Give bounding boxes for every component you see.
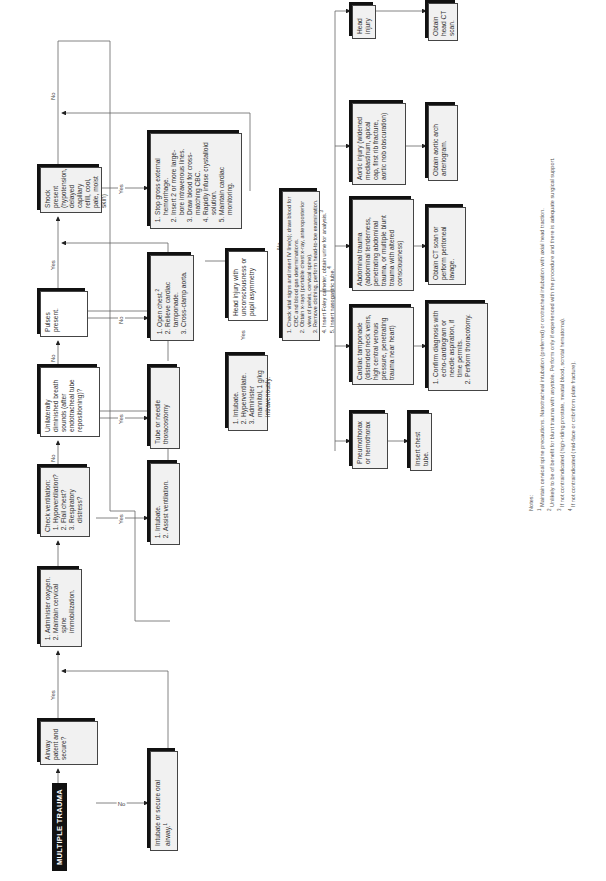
list-item: Administer mannitol, 1 g/kg intravenousl…	[248, 360, 272, 417]
node-text: Cardiac tamponade (distended neck veins,…	[356, 314, 395, 380]
note-number: 3	[557, 508, 562, 511]
node-abdominal-trauma: Abdominal trauma (abdominal tenderness, …	[352, 199, 414, 291]
note-text: If not contraindicated (high-riding pros…	[559, 318, 565, 507]
list-item: Check vital signs and insert IV line(s);…	[286, 196, 299, 327]
node-shock-actions: Stop gross external hemorrhage. Insert 2…	[150, 133, 242, 229]
note-3: 3 If not contraindicated (high-riding pr…	[556, 11, 566, 511]
node-head-ct: Obtain head CT scan.	[428, 3, 458, 41]
node-aortic-injury: Aortic injury (widened mediastinum, apic…	[352, 103, 406, 185]
note-1: 1 Maintain cervical spine precautions. N…	[536, 11, 546, 511]
node-confirm-diagnosis: Confirm diagnosis with echo-cardiogram o…	[428, 303, 488, 391]
node-text: Abdominal trauma (abdominal tenderness, …	[356, 215, 403, 286]
node-text: Aortic injury (widened mediastinum, apic…	[356, 113, 387, 180]
node-head-injury: Head injury	[352, 5, 376, 39]
node-shock-present: Shock present (hypotension, delayed capi…	[40, 167, 102, 213]
list-item: Remove clothing, perform head-to-toe exa…	[312, 196, 319, 327]
node-arteriogram: Obtain aortic arch arteriogram.	[428, 105, 458, 181]
list-item: Stop gross external hemorrhage.	[154, 138, 170, 215]
node-intubate-assist: Intubate.Assist ventilation.	[150, 463, 180, 545]
edge-label-no: No	[117, 801, 127, 808]
edge-label-yes: Yes	[240, 329, 247, 341]
node-text: Pulses present.	[44, 308, 59, 332]
footnote-ref: 4	[327, 266, 332, 269]
flowchart-multiple-trauma: MULTIPLE TRAUMA Airway patent and secure…	[0, 0, 606, 881]
edge-label-yes: Yes	[50, 259, 57, 271]
list-item: Respiratory distress?	[68, 472, 84, 523]
notes-heading: Notes:	[528, 11, 536, 511]
node-administer-oxygen: Administer oxygen.Maintain cervical spin…	[40, 569, 82, 647]
note-text: Maintain cervical spine precautions. Nas…	[538, 208, 544, 507]
node-text: Tube or needle thoracostomy	[154, 400, 169, 444]
chart-title: MULTIPLE TRAUMA	[52, 783, 67, 871]
node-text: Insert chest tube.	[414, 432, 429, 466]
node-text: Unilaterally diminished breath sounds (a…	[44, 379, 83, 432]
list-item: Cross-clamp aorta.	[180, 260, 188, 327]
node-airway-patent: Airway patent and secure?	[40, 721, 98, 765]
node-open-chest: Open chest.2 Relieve cardiac tamponade. …	[150, 255, 194, 341]
list-item: Obtain x-rays (portable chest x-ray, ant…	[299, 196, 312, 327]
list-item: Administer oxygen.	[44, 574, 52, 633]
node-head-injury-unconscious: Head injury with unconsciousness or pupi…	[228, 251, 268, 321]
list-item: Intubate.	[232, 360, 240, 417]
list-item: Hyperventilate.	[240, 360, 248, 417]
note-text: Unlikely to be of benefit for blunt trau…	[549, 157, 555, 507]
note-2: 2 Unlikely to be of benefit for blunt tr…	[546, 11, 556, 511]
node-intubate-hyperventilate: Intubate. Hyperventilate. Administer man…	[228, 355, 268, 431]
list-item: Flail chest?	[60, 472, 68, 523]
node-pneumothorax: Pneumothorax or hemothorax	[352, 413, 388, 469]
edge-label-no: No	[118, 315, 125, 325]
node-text: Obtain aortic arch arteriogram.	[432, 124, 447, 176]
list-item: Assist ventilation.	[162, 468, 170, 531]
node-text: Shock present (hypotension, delayed capi…	[44, 168, 107, 208]
node-cardiac-tamponade: Cardiac tamponade (distended neck veins,…	[352, 307, 414, 385]
list-item: Confirm diagnosis with echo-cardiogram o…	[432, 308, 464, 377]
item-text: Insert Foley catheter, obtain urine for …	[321, 213, 327, 327]
list-item: Perform thoracotomy.	[464, 308, 472, 377]
node-text: Obtain CT scan or perform peritoneal lav…	[432, 226, 455, 280]
node-ct-lavage: Obtain CT scan or perform peritoneal lav…	[428, 207, 466, 285]
node-text: Head injury with unconsciousness or pupi…	[232, 258, 255, 316]
list-item: Relieve cardiac tamponade.	[164, 260, 180, 327]
node-text: Airway patent and secure?	[44, 729, 67, 760]
note-text: If not contraindicated (mid-face or crib…	[569, 361, 575, 507]
node-thoracostomy: Tube or needle thoracostomy	[150, 367, 180, 449]
list-item: Open chest.2	[154, 260, 164, 327]
note-number: 4	[568, 508, 573, 511]
edge-label-no: No	[50, 353, 57, 363]
item-text: Insert nasogastric tube.	[329, 269, 335, 327]
list-item: Maintain cervical spine immobilization.	[52, 574, 76, 633]
node-pulses-present: Pulses present.	[40, 291, 88, 337]
node-text: Pneumothorax or hemothorax	[356, 421, 371, 464]
node-text: Obtain head CT scan.	[432, 11, 455, 36]
list-item: Maintain cardiac monitoring.	[218, 138, 234, 215]
edge-label-yes: Yes	[118, 513, 125, 525]
edge-label-yes: Yes	[50, 689, 57, 701]
node-check-ventilation: Check ventilation: Hypoventilation?Flail…	[40, 467, 90, 537]
list-item: Draw blood for cross-matching CBC.	[186, 138, 202, 215]
list-item: Hypoventilation?	[52, 472, 60, 523]
node-text: Head injury	[356, 18, 371, 34]
note-number: 1	[537, 508, 542, 511]
note-4: 4 If not contraindicated (mid-face or cr…	[567, 11, 577, 511]
edge-label-no: No	[50, 91, 57, 101]
list-item: Insert nasogastric tube.4	[327, 196, 335, 327]
node-breath-sounds: Unilaterally diminished breath sounds (a…	[40, 367, 100, 437]
edge-label-yes: Yes	[118, 183, 125, 195]
edge-label-no: No	[50, 453, 57, 463]
list-item: Rapidly infuse crystalloid solution.	[202, 138, 218, 215]
list-item: Intubate.	[154, 468, 162, 531]
note-number: 2	[547, 508, 552, 511]
node-insert-chest-tube: Insert chest tube.	[410, 413, 432, 471]
list-item: Insert 2 or more large-bore intravenous …	[170, 138, 186, 215]
footnote-ref: 3	[319, 210, 324, 213]
item-text: Open chest.	[156, 291, 163, 327]
edge-label-yes: Yes	[118, 413, 125, 425]
list-item: Insert Foley catheter, obtain urine for …	[319, 196, 327, 327]
node-heading: Check ventilation:	[44, 472, 52, 532]
footnote-ref: 2	[155, 289, 160, 292]
footnote-ref: 1	[163, 823, 168, 826]
node-check-vitals: Check vital signs and insert IV line(s);…	[282, 191, 320, 341]
footnotes: Notes: 1 Maintain cervical spine precaut…	[528, 11, 577, 511]
node-text: Intubate or secure oral airway.	[154, 780, 171, 846]
node-intubate-secure-airway: Intubate or secure oral airway.1	[150, 751, 178, 851]
